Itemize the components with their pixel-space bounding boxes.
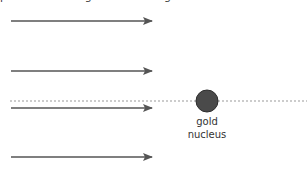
- nucleus-label-line2: nucleus: [182, 128, 232, 141]
- gold-nucleus-icon: [196, 90, 218, 112]
- nucleus-label: gold nucleus: [182, 115, 232, 141]
- nucleus-label-line1: gold: [182, 115, 232, 128]
- scattering-diagram: [0, 0, 307, 169]
